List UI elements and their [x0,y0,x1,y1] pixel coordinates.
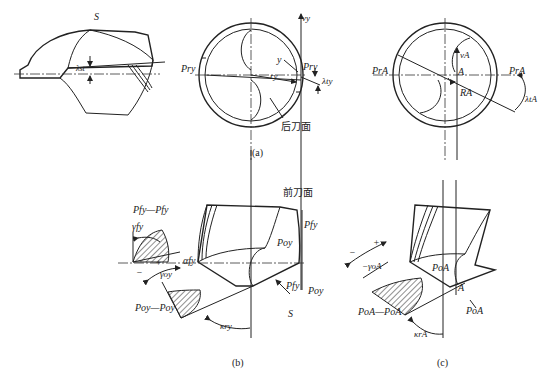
gamma-o-label: γoy [160,270,172,279]
plane-f-bottom-label: Pfy [286,281,299,291]
radius-label: ry [270,72,278,81]
plane-left-label: Pry [181,64,195,74]
gamma-f-label: γfy [132,222,143,232]
rake-face-label: 前刀面 [283,188,313,198]
section-f-label: Pfy—Pfy [133,205,169,215]
lambda-label: λtA [525,95,537,104]
plane-right-label: PrA [509,66,525,76]
plane-o-bottom-label: Poy [308,286,324,296]
velocity-label: vy [302,14,310,23]
velocity-label: vA [460,51,470,60]
minus-label: − [349,248,356,258]
surface-label: S [94,12,99,22]
point-a-label: A [458,67,464,77]
drill-side-view [14,30,165,115]
caption-c: (c) [437,358,448,368]
gamma-o-label: −γoA [362,262,382,271]
drill-end-view-a [373,18,525,160]
caption-a: (a) [252,148,263,158]
drill-end-view-y [195,14,320,160]
section-o-label: PoA—PoA [358,307,401,317]
point-a-label: A [458,283,464,293]
plane-f-top-label: Pfy [304,220,317,230]
plane-left-label: PrA [372,66,388,76]
lambda-label: λst [76,65,85,73]
plane-right-label: Pry [303,62,317,72]
plane-o-bottom-label: PoA [466,306,483,316]
kappa-label: κry [220,322,232,331]
section-o-label: Poy—Poy [135,303,175,313]
plane-o-mid-label: PoA [432,263,449,273]
point-y-label: y [277,55,281,65]
kappa-label: κrA [414,330,427,339]
flank-face-label: 后刀面 [281,122,311,132]
plus-label: + [373,238,380,248]
caption-b: (b) [232,358,244,368]
plane-o-mid-label: Poy [277,238,293,248]
minus-label: − [136,268,143,278]
radius-label: RA [460,88,472,98]
surface-label: S [288,309,293,319]
alpha-f-label: αfy [183,256,195,266]
plus-label: + [155,258,162,268]
lambda-label: λty [322,77,332,86]
